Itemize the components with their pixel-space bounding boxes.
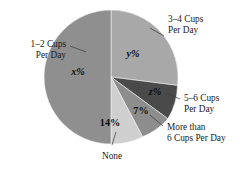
category-label-1-2-cups-line1: 1–2 Cups (31, 39, 67, 49)
category-label-1-2-cups-line2: Per Day (36, 50, 67, 60)
category-label-5-6-cups-line2: Per Day (184, 104, 215, 114)
category-label-3-4-cups-line1: 3–4 Cups (168, 14, 204, 24)
pie-chart-svg: x% y% z% 7% 14% 1–2 Cups Per Day 3–4 Cup… (0, 0, 250, 173)
category-label-more-than-6-cups-line2: 6 Cups Per Day (167, 133, 226, 143)
slice-value-5-6-cups: z% (148, 86, 161, 97)
slice-value-3-4-cups: y% (124, 48, 139, 59)
pie-chart-figure: x% y% z% 7% 14% 1–2 Cups Per Day 3–4 Cup… (0, 0, 250, 173)
category-label-3-4-cups-line2: Per Day (168, 25, 199, 35)
category-label-none: None (102, 151, 122, 161)
slice-value-none: 14% (100, 117, 120, 128)
slice-value-1-2-cups: x% (70, 66, 85, 77)
slice-value-more-than-6-cups: 7% (133, 105, 148, 116)
category-label-5-6-cups-line1: 5–6 Cups (184, 93, 220, 103)
category-label-more-than-6-cups-line1: More than (167, 122, 206, 132)
